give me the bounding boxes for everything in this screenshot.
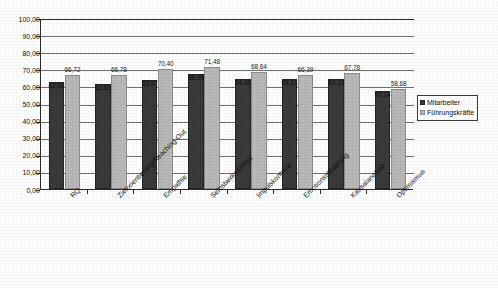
legend-label: Mitarbeiter (427, 99, 460, 107)
legend-swatch-icon (420, 100, 425, 105)
bar-value-label: 70,40 (150, 60, 182, 67)
y-tick-label: 30,00 (4, 135, 40, 142)
y-tick-label: 0,00 (4, 187, 40, 194)
bar-value-label: 66,72 (57, 66, 89, 73)
bar-fuehrungskraefte[interactable] (204, 67, 220, 189)
bar-fuehrungskraefte[interactable] (158, 69, 174, 189)
bar-fuehrungskraefte[interactable] (391, 89, 407, 189)
x-tick-mark (366, 190, 367, 194)
bar-fuehrungskraefte[interactable] (344, 73, 360, 189)
bar-mitarbeiter[interactable] (49, 82, 65, 189)
x-tick-mark (133, 190, 134, 194)
y-tick-label: 20,00 (4, 152, 40, 159)
x-tick-mark (227, 190, 228, 194)
bar-group: 66,9871,48 (188, 18, 220, 189)
x-tick-mark (180, 190, 181, 194)
bar-mitarbeiter[interactable] (188, 74, 204, 189)
y-tick-label: 80,00 (4, 50, 40, 57)
y-tick-label: 50,00 (4, 101, 40, 108)
bar-value-label: 66,78 (103, 66, 135, 73)
bar-value-label: 71,48 (196, 58, 228, 65)
bar-value-label: 68,64 (243, 63, 275, 70)
chart-legend: Mitarbeiter Führungskräfte (417, 95, 478, 121)
y-tick-label: 70,00 (4, 67, 40, 74)
plot-area: 62,6266,7261,5366,7863,9770,4066,9871,48… (40, 19, 413, 190)
x-tick-mark (320, 190, 321, 194)
y-tick-label: 90,00 (4, 33, 40, 40)
y-tick-label: 40,00 (4, 118, 40, 125)
y-tick-label: 100,00 (4, 16, 40, 23)
bar-group: 62,6266,72 (49, 18, 81, 189)
bar-fuehrungskraefte[interactable] (65, 75, 81, 189)
y-tick-label: 60,00 (4, 84, 40, 91)
bar-group: 61,5366,78 (95, 18, 127, 189)
bar-value-label: 58,68 (383, 80, 415, 87)
chart-title (70, 0, 400, 3)
y-tick-mark (36, 190, 40, 191)
bar-fuehrungskraefte[interactable] (251, 72, 267, 189)
bar-mitarbeiter[interactable] (95, 84, 111, 189)
x-tick-mark (273, 190, 274, 194)
legend-swatch-icon (420, 110, 425, 115)
y-axis: 100,0090,0080,0070,0060,0050,0040,0030,0… (0, 0, 40, 288)
x-tick-mark (87, 190, 88, 194)
y-tick-label: 10,00 (4, 169, 40, 176)
legend-label: Führungskräfte (427, 109, 474, 117)
bar-fuehrungskraefte[interactable] (298, 75, 314, 189)
legend-item-mitarbeiter[interactable]: Mitarbeiter (420, 98, 474, 107)
bar-fuehrungskraefte[interactable] (111, 75, 127, 189)
bar-chart: 100,0090,0080,0070,0060,0050,0040,0030,0… (0, 0, 498, 288)
bar-value-label: 67,78 (336, 64, 368, 71)
bar-value-label: 66,39 (290, 66, 322, 73)
legend-item-fuehrungskraefte[interactable]: Führungskräfte (420, 108, 474, 117)
